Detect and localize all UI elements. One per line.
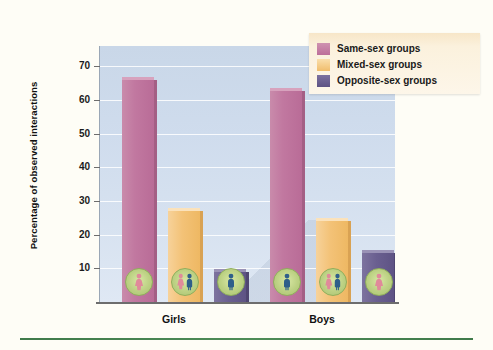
y-axis-title: Percentage of observed interactions [28, 76, 39, 256]
legend-label-opposite-sex: Opposite-sex groups [337, 75, 437, 87]
male-figure-icon [217, 268, 245, 296]
mixed-figures-icon [171, 268, 199, 296]
bar-side-edge [200, 211, 203, 302]
bar-side-edge [246, 272, 249, 302]
legend-item-same-sex[interactable]: Same-sex groups [317, 42, 472, 55]
legend-item-opposite-sex[interactable]: Opposite-sex groups [317, 74, 472, 87]
bar-side-edge [348, 221, 351, 302]
legend-label-mixed-sex: Mixed-sex groups [337, 59, 422, 71]
female-figure-icon [125, 268, 153, 296]
male-figure-icon [273, 268, 301, 296]
figure-container: Percentage of observed interactions 1020… [0, 0, 493, 350]
x-axis-line [96, 302, 399, 304]
legend-swatch-mixed-sex [317, 59, 330, 71]
y-axis-tick-label: 50 [50, 129, 90, 139]
bar-side-edge [302, 91, 305, 302]
mixed-figures-icon [319, 268, 347, 296]
legend-swatch-opposite-sex [317, 75, 330, 87]
y-axis-tick-label: 60 [50, 95, 90, 105]
legend: Same-sex groups Mixed-sex groups Opposit… [309, 33, 480, 94]
female-figure-icon [365, 268, 393, 296]
y-axis-tick-label: 40 [50, 162, 90, 172]
bar-side-edge [394, 253, 395, 302]
y-axis-tick-label: 20 [50, 230, 90, 240]
legend-item-mixed-sex[interactable]: Mixed-sex groups [317, 58, 472, 71]
y-axis-tick-label: 10 [50, 263, 90, 273]
x-axis-label-girls: Girls [124, 313, 224, 325]
bar-side-edge [154, 80, 157, 302]
y-axis-tick-label: 70 [50, 61, 90, 71]
x-axis-label-boys: Boys [272, 313, 372, 325]
bottom-divider-rule [20, 338, 473, 340]
legend-label-same-sex: Same-sex groups [337, 43, 420, 55]
y-axis-tick-label: 30 [50, 196, 90, 206]
legend-swatch-same-sex [317, 43, 330, 55]
